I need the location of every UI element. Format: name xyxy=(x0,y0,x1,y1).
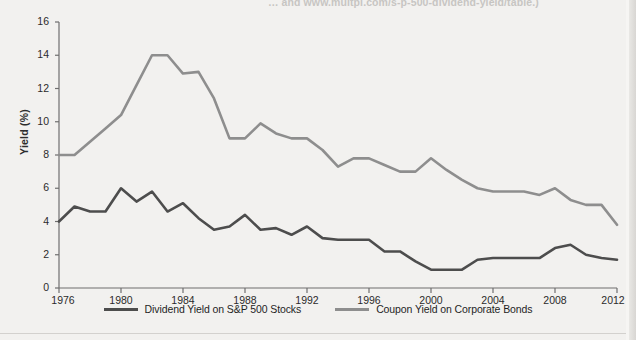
legend-item-coupon-yield: Coupon Yield on Corporate Bonds xyxy=(335,303,532,315)
legend-swatch-coupon-yield xyxy=(335,308,369,311)
legend-label-coupon-yield: Coupon Yield on Corporate Bonds xyxy=(376,303,532,315)
y-tick-label: 14 xyxy=(23,48,49,60)
page-edge-shadow xyxy=(629,0,636,340)
y-tick-label: 0 xyxy=(23,281,49,293)
chart-page: … and www.multpl.com/s-p-500-dividend-yi… xyxy=(0,0,636,340)
page-bottom-rule xyxy=(0,333,629,334)
y-tick-label: 6 xyxy=(23,181,49,193)
y-tick-label: 8 xyxy=(23,148,49,160)
legend-label-dividend-yield: Dividend Yield on S&P 500 Stocks xyxy=(145,303,302,315)
chart-legend: Dividend Yield on S&P 500 Stocks Coupon … xyxy=(0,303,636,315)
y-tick-label: 10 xyxy=(23,115,49,127)
axis-lines xyxy=(59,22,617,288)
x-axis-ticks xyxy=(59,288,617,293)
line-chart-plot xyxy=(0,0,636,340)
data-series-group xyxy=(59,55,617,269)
series-line xyxy=(59,188,617,269)
y-tick-label: 2 xyxy=(23,248,49,260)
y-tick-label: 4 xyxy=(23,215,49,227)
y-tick-label: 12 xyxy=(23,82,49,94)
legend-item-dividend-yield: Dividend Yield on S&P 500 Stocks xyxy=(104,303,302,315)
legend-swatch-dividend-yield xyxy=(104,308,138,311)
y-tick-label: 16 xyxy=(23,15,49,27)
series-line xyxy=(59,55,617,225)
